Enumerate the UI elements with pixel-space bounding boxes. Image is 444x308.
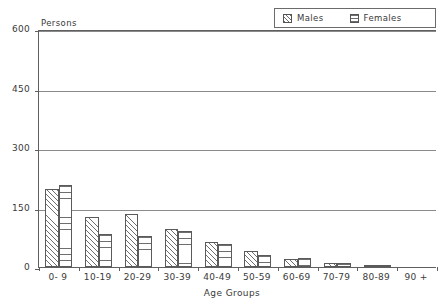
bar-group	[79, 217, 119, 267]
x-tick-label-0-9: 0- 9	[38, 272, 78, 282]
bar-group	[198, 242, 238, 267]
x-tickmark	[357, 267, 358, 271]
x-tickmark	[437, 267, 438, 271]
legend-label-females: Females	[364, 13, 402, 23]
legend-entry-males: Males	[283, 13, 324, 23]
x-tick-label-40-49: 40-49	[197, 272, 237, 282]
x-tick-label-90+: 90 +	[396, 272, 436, 282]
x-tick-label-70-79: 70-79	[317, 272, 357, 282]
plot-area	[38, 30, 436, 268]
chart-legend: Males Females	[274, 8, 436, 28]
x-tickmark	[119, 267, 120, 271]
x-tickmark	[318, 267, 319, 271]
y-tick-label-300: 300	[0, 143, 30, 153]
x-tickmark	[158, 267, 159, 271]
x-axis-title: Age Groups	[0, 288, 444, 298]
x-tickmark	[39, 267, 40, 271]
bar-females-10-19	[99, 234, 113, 267]
legend-entry-females: Females	[350, 13, 402, 23]
bar-males-30-39	[165, 229, 179, 267]
bar-males-20-29	[125, 214, 139, 267]
x-tickmark	[397, 267, 398, 271]
x-tickmark	[278, 267, 279, 271]
bar-females-30-39	[178, 231, 192, 267]
bar-females-20-29	[138, 236, 152, 267]
bar-females-0-9	[59, 185, 73, 268]
y-tick-label-600: 600	[0, 24, 30, 34]
bar-females-80-89	[377, 265, 391, 267]
y-tick-label-450: 450	[0, 84, 30, 94]
bar-females-70-79	[337, 263, 351, 267]
bar-group	[238, 251, 278, 267]
bar-group	[39, 185, 79, 268]
gridline-300	[39, 150, 436, 151]
x-tickmark	[198, 267, 199, 271]
y-tick-label-0: 0	[0, 262, 30, 272]
y-tick-label-150: 150	[0, 203, 30, 213]
x-tick-label-60-69: 60-69	[277, 272, 317, 282]
bar-group	[357, 265, 397, 267]
diagonal-hatch-icon	[283, 14, 292, 23]
bar-males-60-69	[284, 259, 298, 267]
bar-males-50-59	[244, 251, 258, 267]
bar-males-40-49	[205, 242, 219, 267]
y-tickmark-600	[35, 31, 39, 32]
gridline-450	[39, 91, 436, 92]
x-tick-label-50-59: 50-59	[237, 272, 277, 282]
x-tick-label-10-19: 10-19	[78, 272, 118, 282]
y-tickmark-450	[35, 91, 39, 92]
y-axis-unit-label: Persons	[41, 18, 77, 28]
x-axis-title-text: Age Groups	[204, 288, 260, 298]
plot-inner	[39, 31, 436, 267]
y-tickmark-300	[35, 150, 39, 151]
bar-group	[158, 229, 198, 267]
bar-males-10-19	[85, 217, 99, 267]
bar-females-60-69	[298, 258, 312, 267]
bar-females-40-49	[218, 244, 232, 267]
bar-group	[278, 258, 318, 267]
x-tickmark	[79, 267, 80, 271]
gridline-150	[39, 210, 436, 211]
x-tick-label-80-89: 80-89	[356, 272, 396, 282]
gridline-600	[39, 31, 436, 32]
bar-group	[119, 214, 159, 267]
bar-group	[318, 263, 358, 267]
bar-males-80-89	[364, 265, 378, 267]
bar-males-0-9	[45, 189, 59, 267]
x-tickmark	[238, 267, 239, 271]
legend-label-males: Males	[297, 13, 324, 23]
x-tick-label-20-29: 20-29	[118, 272, 158, 282]
bar-males-70-79	[324, 263, 338, 267]
bar-chart: Males Females Persons 0150300450600 0- 9…	[0, 0, 444, 308]
horizontal-lines-icon	[350, 14, 359, 23]
x-tick-label-30-39: 30-39	[157, 272, 197, 282]
bar-females-50-59	[258, 255, 272, 267]
